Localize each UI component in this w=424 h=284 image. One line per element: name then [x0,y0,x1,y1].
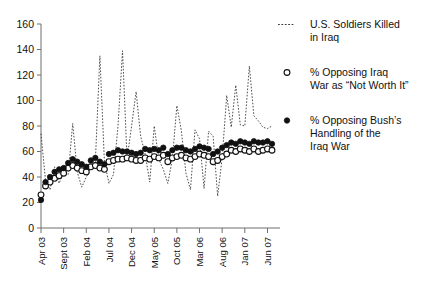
y-tick-label: 0 [28,222,34,234]
data-point-filled [206,146,211,151]
y-tick-label: 80 [22,120,34,132]
y-tick-label: 60 [22,145,34,157]
x-tick-label: Dec 04 [126,237,137,267]
x-tick-label: Oct 05 [171,237,182,265]
data-point-filled [165,151,170,156]
legend-filled-circle-icon [284,118,289,123]
data-point-filled [47,174,52,179]
legend-item: U.S. Soldiers Killedin Iraq [278,18,400,43]
x-tick-label: Feb 04 [81,237,92,267]
data-point-filled [215,149,220,154]
legend-item-label: War as “Not Worth It” [310,79,409,91]
x-tick-label: Jun 07 [262,237,273,266]
data-point-filled [93,155,98,160]
data-point-filled [269,141,274,146]
data-point-open [269,147,275,153]
legend-item-label: in Iraq [310,31,339,43]
data-point-filled [102,162,107,167]
x-tick-label: Jul 04 [104,237,115,262]
x-tick-label: May 05 [149,237,160,268]
y-tick-label: 140 [16,43,34,55]
legend-item: % Opposing IraqWar as “Not Worth It” [284,66,409,91]
data-point-filled [138,150,143,155]
data-point-filled [43,179,48,184]
line-chart: 020406080100120140160Apr 03Sept 03Feb 04… [0,0,424,284]
y-tick-label: 100 [16,94,34,106]
legend-item-label: % Opposing Bush’s [310,114,401,126]
x-tick-label: Mar 06 [194,237,205,267]
x-tick-label: Jan 07 [239,237,250,266]
series-soldiers-killed-line [41,51,272,196]
data-point-filled [65,160,70,165]
y-tick-label: 40 [22,171,34,183]
legend-item-label: Iraq War [310,140,350,152]
chart-container: 020406080100120140160Apr 03Sept 03Feb 04… [0,0,424,284]
y-tick-label: 120 [16,69,34,81]
x-tick-label: Aug 06 [217,237,228,267]
legend-item-label: % Opposing Iraq [310,66,388,78]
y-tick-label: 20 [22,196,34,208]
y-tick-label: 160 [16,18,34,30]
legend-item: % Opposing Bush’sHandling of theIraq War [284,114,401,152]
legend-item-label: Handling of the [310,127,381,139]
legend-open-circle-icon [284,70,290,76]
x-tick-label: Apr 03 [36,237,47,265]
data-point-filled [38,197,43,202]
legend-item-label: U.S. Soldiers Killed [310,18,400,30]
data-point-filled [84,164,89,169]
x-tick-label: Sept 03 [58,237,69,270]
series-opposing-war-not-worth-it [38,146,275,198]
data-point-filled [161,145,166,150]
data-point-filled [61,165,66,170]
